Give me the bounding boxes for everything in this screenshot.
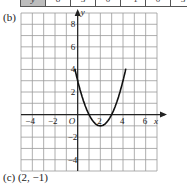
x-tick-label: 6 <box>143 116 148 126</box>
x-tick-label: −2 <box>48 116 58 126</box>
x-tick-label: −4 <box>25 116 35 126</box>
y-tick-label: −2 <box>68 132 78 142</box>
y-tick-label: −4 <box>68 155 78 165</box>
parabola-graph: −4−22468642−2−4Oxy <box>0 0 187 187</box>
y-tick-label: 8 <box>71 19 76 29</box>
y-axis-label: y <box>80 7 85 17</box>
x-tick-label: 4 <box>120 116 125 126</box>
y-tick-label: 2 <box>71 87 76 97</box>
x-tick-label: 2 <box>97 116 102 126</box>
x-axis-label: x <box>153 116 158 126</box>
x-axis-arrow-icon <box>160 112 167 118</box>
origin-label: O <box>69 116 76 126</box>
y-tick-label: 6 <box>71 42 76 52</box>
